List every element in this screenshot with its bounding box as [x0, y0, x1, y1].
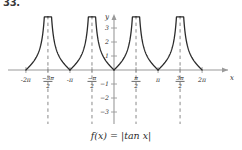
y-tick-label: −3: [100, 108, 109, 115]
x-axis-label: x: [230, 74, 234, 82]
curve-branch: [92, 17, 114, 70]
problem-number: 33.: [3, 0, 20, 8]
x-tick-label-numerator: π: [133, 75, 138, 81]
y-tick-label: 2: [104, 38, 109, 45]
y-tick-label: −2: [100, 94, 109, 101]
x-tick-label-denominator: 2: [45, 83, 50, 89]
x-tick-label: -2π: [21, 76, 32, 83]
x-tick-label: π: [155, 76, 161, 83]
x-tick-label-numerator: 3π: [176, 75, 184, 81]
figure-tan-abs: 33. x y -2π−3π2-π−π2π2π3π22π 321−1−2−3 f…: [0, 0, 242, 150]
curve-branch: [114, 17, 136, 70]
x-axis-arrow: [222, 67, 228, 72]
x-tick-label: 2π: [197, 76, 207, 83]
plot-canvas: x y -2π−3π2-π−π2π2π3π22π 321−1−2−3: [0, 0, 242, 150]
x-tick-label: -π: [67, 76, 74, 83]
curve-branch: [158, 17, 180, 70]
figure-caption: f(x) = |tan x|: [0, 130, 242, 141]
x-tick-label-denominator: 2: [89, 83, 94, 89]
x-tick-label-denominator: 2: [133, 83, 138, 89]
curve-branch: [26, 17, 48, 70]
x-tick-label-denominator: 2: [177, 83, 182, 89]
y-tick-label: 3: [105, 24, 109, 31]
y-axis-arrow: [112, 14, 117, 20]
y-tick-label: −1: [100, 80, 109, 87]
curve-branch: [180, 17, 202, 70]
curve-branch: [48, 17, 70, 70]
curve-branch: [70, 17, 92, 70]
y-tick-label: 1: [105, 52, 109, 59]
x-tick-label-numerator: −π: [88, 75, 97, 81]
y-axis-label: y: [104, 13, 110, 21]
axes-group: [8, 14, 228, 124]
curve-branch: [136, 17, 158, 70]
x-tick-label-numerator: −3π: [42, 75, 54, 81]
caption-text: f(x) = |tan x|: [91, 130, 152, 141]
